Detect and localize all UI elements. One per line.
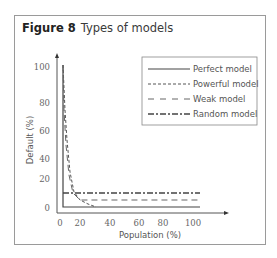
legend: Perfect model Powerful model Weak model … [142,57,259,125]
x-tick-labels: 0 20 40 60 80 100 [57,218,201,228]
x-tick: 80 [158,218,169,228]
legend-item: Powerful model [193,79,259,89]
legend-item: Perfect model [193,64,252,74]
y-tick: 60 [39,126,50,136]
y-tick: 0 [45,203,50,213]
y-axis-label: Default (%) [25,116,35,164]
legend-item: Weak model [193,94,245,104]
x-tick: 60 [134,218,145,228]
x-axis-arrow-icon [224,211,229,215]
x-tick: 0 [57,218,62,228]
legend-item: Random model [193,109,257,119]
y-tick-labels: 100 80 60 40 20 0 [34,62,50,213]
chart: 100 80 60 40 20 0 0 20 40 60 80 100 Popu… [0,0,277,258]
y-tick: 20 [39,174,50,184]
y-tick: 80 [39,98,50,108]
x-tick: 100 [185,218,201,228]
x-tick: 40 [105,218,116,228]
y-axis-arrow-icon [55,53,59,58]
y-tick: 40 [39,154,50,164]
x-tick: 20 [75,218,86,228]
y-tick: 100 [34,62,50,72]
series-powerful-model [63,65,96,207]
x-axis-label: Population (%) [119,230,181,240]
